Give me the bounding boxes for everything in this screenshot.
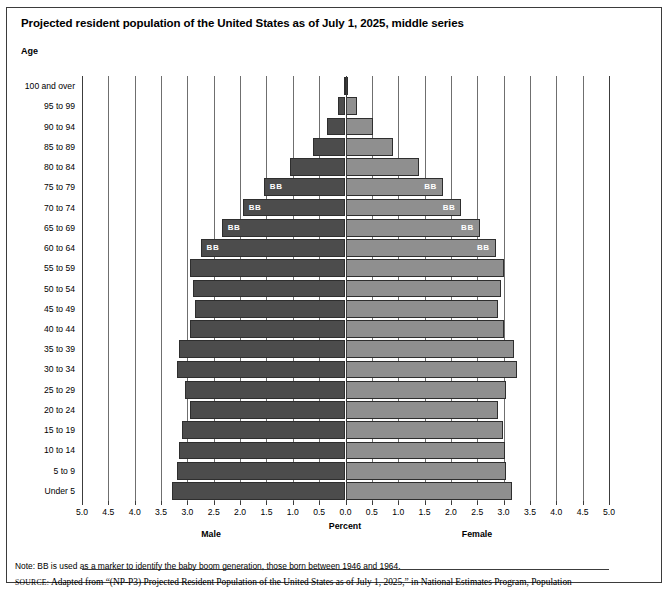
y-axis-tick-label: 10 to 14 [44, 445, 75, 455]
y-axis-tick-label: 90 to 94 [44, 122, 75, 132]
bar-male [179, 442, 345, 460]
bb-marker-female: BB [461, 224, 474, 232]
x-axis-tick-mark [372, 501, 373, 505]
bar-male [290, 158, 345, 176]
bar-male [177, 462, 346, 480]
bar-male [190, 401, 345, 419]
bar-male [195, 300, 345, 318]
bar-female [346, 280, 501, 298]
bar-male [193, 280, 346, 298]
x-axis-tick-mark [609, 501, 610, 505]
bar-female [346, 320, 504, 338]
x-axis-tick-mark [319, 501, 320, 505]
x-axis-tick-label: 4.5 [577, 507, 589, 517]
bar-male: BB [201, 239, 346, 257]
x-axis-tick-mark [293, 501, 294, 505]
y-axis-tick-label: 95 to 99 [44, 101, 75, 111]
x-axis-tick-label: 0.5 [313, 507, 325, 517]
bar-male [182, 421, 345, 439]
bar-female [346, 482, 512, 500]
bb-marker-female: BB [443, 204, 456, 212]
x-axis-tick-label: 3.5 [524, 507, 536, 517]
x-axis-ticks: 5.04.54.03.53.02.52.01.51.00.50.00.51.01… [82, 501, 609, 523]
y-axis-ticks: 100 and over95 to 9990 to 9485 to 8980 t… [7, 76, 79, 501]
bar-female [346, 97, 358, 115]
legend-male: Male [201, 529, 221, 539]
x-axis-tick-mark [135, 501, 136, 505]
x-axis-tick-label: 1.5 [260, 507, 272, 517]
bar-female [346, 300, 499, 318]
y-axis-tick-label: 30 to 34 [44, 364, 75, 374]
x-axis-tick-mark [108, 501, 109, 505]
bar-female [346, 462, 507, 480]
bb-marker-male: BB [228, 224, 241, 232]
bar-male [177, 361, 346, 379]
x-axis-tick-mark [266, 501, 267, 505]
x-axis-tick-mark [346, 501, 347, 505]
x-axis-tick-label: 5.0 [603, 507, 615, 517]
y-axis-tick-label: Under 5 [44, 486, 75, 496]
y-axis-tick-label: 80 to 84 [44, 162, 75, 172]
x-axis-tick-mark [583, 501, 584, 505]
chart-note: Note: BB is used as a marker to identify… [15, 561, 401, 571]
bar-female [346, 138, 393, 156]
x-axis-tick-label: 4.0 [550, 507, 562, 517]
bar-female: BB [346, 178, 443, 196]
figure-frame: Projected resident population of the Uni… [6, 7, 662, 583]
y-axis-tick-label: 100 and over [25, 81, 75, 91]
bar-male [190, 320, 345, 338]
bar-female: BB [346, 219, 480, 237]
y-axis-tick-label: 45 to 49 [44, 304, 75, 314]
bar-male [313, 138, 346, 156]
x-axis-tick-mark [425, 501, 426, 505]
x-axis-tick-label: 0.5 [366, 507, 378, 517]
bar-female [346, 259, 504, 277]
x-axis-tick-mark [214, 501, 215, 505]
bb-marker-male: BB [270, 183, 283, 191]
x-axis-tick-label: 4.0 [129, 507, 141, 517]
bb-marker-male: BB [207, 244, 220, 252]
x-axis-tick-label: 4.5 [102, 507, 114, 517]
x-axis-tick-mark [451, 501, 452, 505]
bb-marker-male: BB [249, 204, 262, 212]
plot-area: BBBBBBBBBBBBBBBB [82, 76, 609, 501]
y-axis-tick-label: 65 to 69 [44, 223, 75, 233]
bar-male: BB [243, 199, 346, 217]
bar-female [346, 118, 373, 136]
bar-male [338, 97, 345, 115]
x-axis-tick-label: 1.0 [287, 507, 299, 517]
y-axis-tick-label: 5 to 9 [53, 466, 75, 476]
y-axis-tick-label: 85 to 89 [44, 142, 75, 152]
page-title: Projected resident population of the Uni… [21, 17, 464, 29]
x-axis-tick-label: 1.0 [392, 507, 404, 517]
y-axis-tick-label: 50 to 54 [44, 284, 75, 294]
bar-male: BB [222, 219, 346, 237]
x-axis-tick-mark [477, 501, 478, 505]
bar-female [346, 340, 515, 358]
x-axis-tick-mark [240, 501, 241, 505]
gridline [346, 76, 347, 501]
x-axis-tick-label: 3.0 [181, 507, 193, 517]
y-axis-tick-label: 15 to 19 [44, 425, 75, 435]
bar-male [179, 340, 345, 358]
y-axis-tick-label: 40 to 44 [44, 324, 75, 334]
bar-female [346, 401, 499, 419]
x-axis-tick-label: 2.0 [445, 507, 457, 517]
bar-female [346, 361, 517, 379]
x-axis-tick-mark [504, 501, 505, 505]
x-axis-tick-mark [82, 501, 83, 505]
bb-marker-female: BB [477, 244, 490, 252]
y-axis-tick-label: 55 to 59 [44, 263, 75, 273]
bar-male [185, 381, 346, 399]
x-axis-tick-label: 2.5 [471, 507, 483, 517]
bar-male: BB [264, 178, 346, 196]
y-axis-tick-label: 75 to 79 [44, 182, 75, 192]
bar-female [346, 158, 420, 176]
bar-female [346, 442, 505, 460]
source-note: source: Adapted from “(NP-P3) Projected … [15, 577, 660, 590]
x-axis-tick-mark [398, 501, 399, 505]
source-label: source: [15, 578, 49, 587]
bar-male [327, 118, 345, 136]
bar-female: BB [346, 239, 496, 257]
x-axis-tick-label: 1.5 [419, 507, 431, 517]
